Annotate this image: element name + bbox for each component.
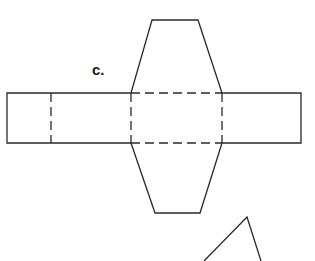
partial-triangle (204, 217, 261, 261)
prism-net-diagram: c. (0, 0, 315, 261)
right-strip-outline (222, 93, 301, 143)
figure-label: c. (92, 61, 105, 78)
bottom-trapezoid-face (131, 143, 222, 213)
top-trapezoid-face (131, 20, 222, 93)
left-strip-outline (7, 93, 131, 143)
